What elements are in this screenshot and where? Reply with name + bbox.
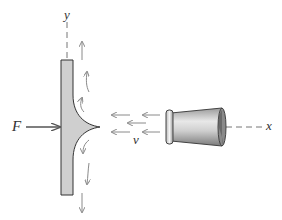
deflected-flow-up-arrows (81, 42, 89, 112)
nozzle (166, 108, 226, 146)
diagram-canvas (0, 0, 282, 220)
y-axis-label: y (64, 8, 70, 21)
deflected-flow-down-arrows (82, 140, 89, 212)
force-label: F (12, 119, 21, 134)
velocity-label: v (133, 133, 139, 146)
jet-velocity-arrows (112, 115, 160, 132)
plate (61, 60, 100, 195)
x-axis-label: x (266, 119, 272, 132)
